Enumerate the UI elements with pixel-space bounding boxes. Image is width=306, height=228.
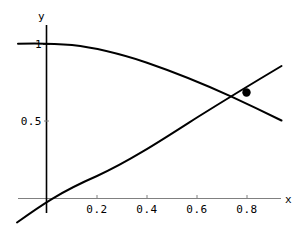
x-tick-marks — [97, 195, 247, 199]
x-tick-label-0.8: 0.8 — [236, 204, 257, 215]
x-tick-label-0.2: 0.2 — [86, 204, 107, 215]
axes-group — [18, 25, 281, 213]
series-cosine-curve — [18, 43, 282, 120]
y-tick-label-0.5: 0.5 — [8, 116, 42, 127]
intersection-point-marker — [242, 88, 250, 96]
plot-canvas — [0, 0, 306, 228]
x-tick-label-0.6: 0.6 — [186, 204, 207, 215]
y-axis-label: y — [38, 11, 45, 22]
plot-figure: y x 1 0.5 0.2 0.4 0.6 0.8 — [0, 0, 306, 228]
x-axis-label: x — [285, 194, 292, 205]
series-identity-line — [17, 66, 282, 223]
x-tick-label-0.4: 0.4 — [136, 204, 157, 215]
y-tick-label-1: 1 — [28, 39, 42, 50]
